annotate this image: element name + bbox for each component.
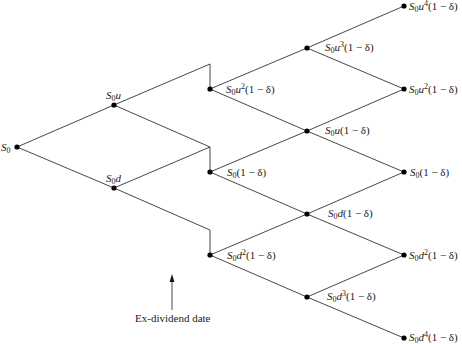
label-s0-1minusdelta-mid: S0(1 − δ) bbox=[227, 166, 267, 180]
node-s0d2 bbox=[207, 252, 212, 257]
node-s0d2-4 bbox=[401, 252, 406, 257]
node-s0d bbox=[111, 185, 116, 190]
node-s0d3 bbox=[304, 294, 309, 299]
node-s0u4 bbox=[401, 3, 406, 8]
node-s0u2-4 bbox=[401, 86, 406, 91]
label-s0: S0 bbox=[1, 141, 11, 155]
node-labels: S0 S0u S0d S0u2(1 − δ) S0(1 − δ) S0d2(1 … bbox=[1, 0, 458, 344]
label-s0u3-1minusdelta: S0u3(1 − δ) bbox=[325, 40, 374, 55]
label-s0u2-1minusdelta: S0u2(1 − δ) bbox=[226, 82, 275, 97]
label-s0u2-1minusdelta-final: S0u2(1 − δ) bbox=[409, 82, 458, 97]
node-s0d-3 bbox=[304, 211, 309, 216]
binomial-tree-diagram: S0 S0u S0d S0u2(1 − δ) S0(1 − δ) S0d2(1 … bbox=[0, 0, 462, 344]
node-s0u-3 bbox=[304, 128, 309, 133]
node-s0-mid2 bbox=[207, 169, 212, 174]
node-s0u2 bbox=[207, 86, 212, 91]
label-s0d: S0d bbox=[106, 172, 122, 186]
label-s0d4-1minusdelta: S0d4(1 − δ) bbox=[409, 330, 458, 344]
label-s0u-1minusdelta: S0u(1 − δ) bbox=[325, 124, 370, 138]
node-s0d4 bbox=[401, 335, 406, 340]
label-s0u: S0u bbox=[106, 89, 122, 103]
label-s0-1minusdelta-final: S0(1 − δ) bbox=[410, 166, 450, 180]
label-s0d3-1minusdelta: S0d3(1 − δ) bbox=[327, 289, 376, 304]
ex-dividend-date-label: Ex-dividend date bbox=[135, 312, 211, 324]
node-s0 bbox=[14, 144, 19, 149]
node-s0u3 bbox=[304, 45, 309, 50]
node-s0u bbox=[111, 102, 116, 107]
label-s0d-1minusdelta: S0d(1 − δ) bbox=[328, 207, 373, 221]
label-s0d2-1minusdelta-final: S0d2(1 − δ) bbox=[409, 248, 458, 263]
ex-dividend-annotation: Ex-dividend date bbox=[135, 274, 211, 324]
label-s0d2-1minusdelta: S0d2(1 − δ) bbox=[227, 248, 276, 263]
node-s0-mid4 bbox=[401, 169, 406, 174]
arrowhead-icon bbox=[170, 274, 175, 282]
label-s0u4-1minusdelta: S0u4(1 − δ) bbox=[409, 0, 458, 14]
